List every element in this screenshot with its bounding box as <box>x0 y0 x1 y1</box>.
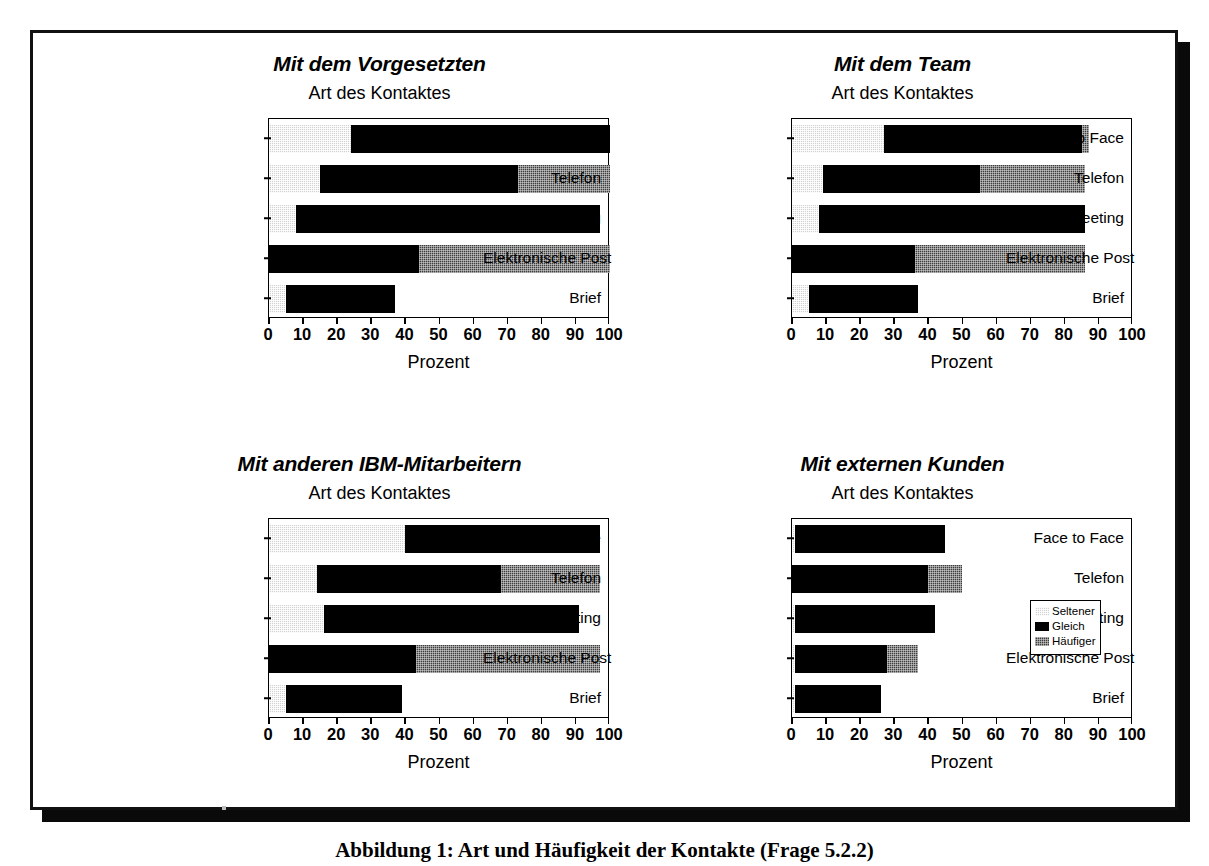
x-axis-tick <box>1064 718 1066 724</box>
chart-subtitle: Art des Kontaktes <box>673 483 1132 504</box>
x-axis-tick <box>825 718 827 724</box>
y-axis-tick <box>787 257 794 259</box>
x-axis-title: Prozent <box>791 352 1132 373</box>
x-axis-tick-label: 100 <box>1118 725 1146 744</box>
y-axis-tick <box>264 137 271 139</box>
x-axis-tick-label: 40 <box>395 725 413 744</box>
x-axis-tick-label: 30 <box>884 325 902 344</box>
y-axis-tick <box>787 217 794 219</box>
x-axis-tick-label: 0 <box>263 325 272 344</box>
plot-wrapper: Face to FaceTelefonMeetingElektronische … <box>150 518 609 718</box>
y-axis-tick <box>264 617 271 619</box>
category-label: Elektronische Post <box>483 649 601 667</box>
x-axis-tick-label: 60 <box>986 725 1004 744</box>
chart-panel-4: Mit externen KundenArt des KontaktesFace… <box>673 452 1138 718</box>
y-axis-tick <box>787 537 794 539</box>
x-axis-tick <box>370 318 372 324</box>
bar-segment-seltener <box>792 165 823 193</box>
bar-segment-gleich <box>795 605 935 633</box>
legend-item[interactable]: Gleich <box>1035 619 1095 634</box>
x-axis-tick <box>996 718 998 724</box>
legend-item[interactable]: Häufiger <box>1035 634 1095 649</box>
x-axis-tick <box>791 718 793 724</box>
bar-segment-seltener <box>269 605 324 633</box>
scan-artifact <box>222 806 226 810</box>
x-axis-tick <box>996 318 998 324</box>
x-axis-tick <box>927 318 929 324</box>
x-axis-title: Prozent <box>791 752 1132 773</box>
x-axis-tick-label: 70 <box>1021 725 1039 744</box>
category-label: Face to Face <box>1006 129 1124 147</box>
bar-segment-seltener <box>269 685 286 713</box>
y-axis-tick <box>787 137 794 139</box>
bar-segment-seltener <box>269 165 320 193</box>
bar-segment-gleich <box>269 245 419 273</box>
bar-segment-gleich <box>286 685 402 713</box>
x-axis-tick <box>893 318 895 324</box>
x-axis-tick-label: 10 <box>293 725 311 744</box>
x-axis-tick <box>859 718 861 724</box>
bar-segment-gleich <box>269 645 416 673</box>
x-axis-tick <box>1030 718 1032 724</box>
x-axis-tick-label: 90 <box>566 325 584 344</box>
x-axis-tick <box>1131 318 1133 324</box>
category-label: Face to Face <box>483 529 601 547</box>
x-axis-tick-label: 100 <box>595 725 623 744</box>
x-axis-tick-label: 40 <box>918 325 936 344</box>
legend-item-label: Häufiger <box>1052 634 1095 649</box>
x-axis-tick <box>893 718 895 724</box>
x-axis-tick <box>1030 318 1032 324</box>
x-axis-tick-label: 20 <box>850 325 868 344</box>
x-axis-tick <box>1098 718 1100 724</box>
x-axis-tick-label: 90 <box>1089 325 1107 344</box>
x-axis-title: Prozent <box>268 752 609 773</box>
x-axis-tick <box>439 318 441 324</box>
x-axis: 0102030405060708090100 <box>791 318 1132 348</box>
bar-segment-haeufiger <box>928 565 962 593</box>
x-axis-tick <box>336 318 338 324</box>
chart-subtitle: Art des Kontaktes <box>150 483 609 504</box>
x-axis-tick <box>302 318 304 324</box>
y-axis-tick <box>264 657 271 659</box>
x-axis-tick-label: 50 <box>952 725 970 744</box>
category-label: Brief <box>1006 689 1124 707</box>
y-axis-tick <box>264 297 271 299</box>
x-axis-tick-label: 10 <box>816 325 834 344</box>
x-axis-tick <box>575 318 577 324</box>
bar-segment-gleich <box>792 565 928 593</box>
x-axis-tick <box>791 318 793 324</box>
x-axis-tick-label: 60 <box>463 725 481 744</box>
category-label: Elektronische Post <box>483 249 601 267</box>
x-axis-tick <box>1098 318 1100 324</box>
x-axis-tick <box>473 718 475 724</box>
x-axis-tick <box>962 318 964 324</box>
x-axis-tick-label: 80 <box>532 325 550 344</box>
category-label: Telefon <box>1006 569 1124 587</box>
category-label: Elektronische Post <box>1006 249 1124 267</box>
x-axis-tick-label: 30 <box>361 725 379 744</box>
x-axis-tick <box>302 718 304 724</box>
chart-legend: SeltenerGleichHäufiger <box>1030 600 1101 655</box>
category-label: Meeting <box>1006 209 1124 227</box>
x-axis-title: Prozent <box>268 352 609 373</box>
y-axis-tick <box>264 177 271 179</box>
x-axis-tick-label: 40 <box>918 725 936 744</box>
x-axis-tick-label: 20 <box>327 325 345 344</box>
bar-segment-gleich <box>823 165 980 193</box>
x-axis-tick <box>336 718 338 724</box>
x-axis-tick <box>927 718 929 724</box>
x-axis-tick-label: 60 <box>986 325 1004 344</box>
chart-title: Mit externen Kunden <box>673 452 1132 476</box>
y-axis-tick <box>264 577 271 579</box>
x-axis-tick-label: 90 <box>1089 725 1107 744</box>
x-axis: 0102030405060708090100 <box>268 318 609 348</box>
x-axis-tick <box>473 318 475 324</box>
x-axis-tick <box>608 318 610 324</box>
bar-segment-haeufiger <box>887 645 918 673</box>
x-axis-tick-label: 70 <box>1021 325 1039 344</box>
category-label: Brief <box>483 289 601 307</box>
light-dotted-swatch <box>1035 607 1049 616</box>
plot-wrapper: Face to FaceTelefonMeetingElektronische … <box>150 118 609 318</box>
legend-item[interactable]: Seltener <box>1035 604 1095 619</box>
category-label: Meeting <box>483 609 601 627</box>
